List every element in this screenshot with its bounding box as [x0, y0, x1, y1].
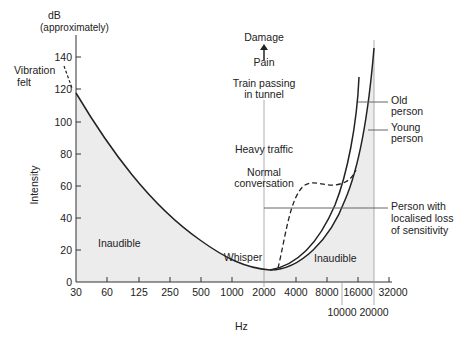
svg-text:4000: 4000	[284, 286, 308, 298]
loss-label-3: of sensitivity	[391, 224, 449, 236]
svg-text:250: 250	[161, 286, 179, 298]
x-tick-labels: 30 60 125 250 500 1000 2000 4000 8000 16…	[70, 286, 408, 318]
pain-label: Pain	[253, 56, 274, 68]
heavy-traffic-label: Heavy traffic	[235, 143, 293, 155]
y-tick-labels: 0 20 40 60 100 80 120 140	[54, 51, 72, 288]
svg-text:32000: 32000	[378, 286, 407, 298]
old-person-label-2: person	[391, 105, 423, 117]
svg-text:125: 125	[130, 286, 148, 298]
svg-text:2000: 2000	[252, 286, 276, 298]
train-label-2: in tunnel	[244, 88, 284, 100]
svg-text:10000: 10000	[327, 306, 356, 318]
intensity-label: Intensity	[28, 165, 40, 205]
hearing-threshold-chart: 0 20 40 60 100 80 120 140 30 60 125 250 …	[0, 0, 466, 337]
arrow-head-icon	[260, 44, 268, 50]
loss-label-2: localised loss	[391, 212, 453, 224]
whisper-label: Whisper	[224, 251, 263, 263]
svg-text:40: 40	[60, 212, 72, 224]
approx-label: (approximately)	[40, 22, 109, 33]
loss-label: Person with	[391, 200, 446, 212]
db-label: dB	[48, 9, 61, 21]
svg-text:60: 60	[60, 180, 72, 192]
svg-text:100: 100	[54, 116, 72, 128]
svg-text:30: 30	[70, 286, 82, 298]
svg-text:20000: 20000	[359, 306, 388, 318]
inaudible-left-label: Inaudible	[98, 237, 141, 249]
hz-label: Hz	[235, 320, 248, 332]
svg-text:60: 60	[101, 286, 113, 298]
svg-text:80: 80	[60, 148, 72, 160]
normal-conversation-label-2: conversation	[234, 177, 294, 189]
svg-text:140: 140	[54, 51, 72, 63]
svg-text:20: 20	[60, 244, 72, 256]
inaudible-right-label: Inaudible	[314, 252, 357, 264]
svg-text:8000: 8000	[315, 286, 339, 298]
damage-label: Damage	[244, 31, 284, 43]
young-person-label-2: person	[391, 132, 423, 144]
vibration-label: Vibration	[14, 64, 55, 76]
svg-text:500: 500	[192, 286, 210, 298]
svg-text:120: 120	[54, 83, 72, 95]
vibration-label-2: felt	[17, 76, 31, 88]
svg-text:16000: 16000	[343, 286, 372, 298]
svg-text:1000: 1000	[220, 286, 244, 298]
